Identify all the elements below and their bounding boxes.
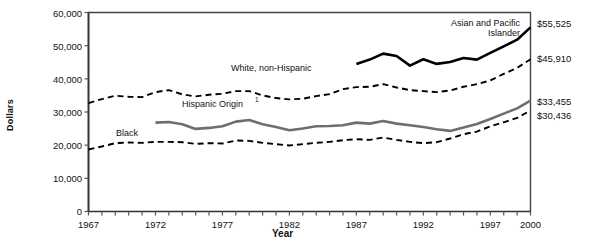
series-label-asian-line2: Islander [488,28,520,38]
y-tick-label-30000: 30,000 [53,107,82,118]
series-label-black: Black [116,128,139,138]
y-axis-title: Dollars [5,75,15,155]
y-axis-title-wrap: Dollars [0,78,21,158]
series-annotations: Asian and Pacific Islander White, non-Hi… [116,18,520,138]
y-tick-label-40000: 40,000 [53,74,82,85]
series-label-hispanic-footnote-marker: 1 [255,96,259,103]
series-path-black [89,111,531,150]
x-tick-label-1977: 1977 [212,219,233,230]
y-tick-label-0: 0 [77,206,82,217]
chart-figure: Dollars Year 60,000 50,000 40,000 30,000… [0,0,589,248]
x-tick-label-2000: 2000 [520,219,541,230]
data-series-layer [89,27,531,149]
x-axis-title: Year [272,228,293,239]
series-label-white: White, non-Hispanic [231,63,312,73]
line-chart-plot: 60,000 50,000 40,000 30,000 20,000 10,00… [0,0,589,248]
x-tick-label-1972: 1972 [145,219,166,230]
plot-frame [88,13,531,212]
x-tick-label-1997: 1997 [480,219,501,230]
y-tick-label-50000: 50,000 [53,41,82,52]
x-tick-label-1967: 1967 [78,219,99,230]
series-label-asian-line1: Asian and Pacific [451,18,521,28]
end-value-hispanic: $33,455 [537,96,571,107]
end-value-black: $30,436 [537,110,571,121]
end-value-labels: $55,525 $45,910 $33,455 $30,436 [537,18,571,121]
x-tick-label-1987: 1987 [346,219,367,230]
x-axis-tick-labels: 19671972197719821987199219972000 [78,219,541,230]
series-label-hispanic: Hispanic Origin [182,99,243,109]
end-value-asian: $55,525 [537,18,571,29]
series-label-hispanic-group: Hispanic Origin 1 [182,96,259,109]
y-tick-label-60000: 60,000 [53,8,82,19]
y-tick-label-10000: 10,000 [53,173,82,184]
y-axis-tick-labels: 60,000 50,000 40,000 30,000 20,000 10,00… [53,8,82,218]
end-value-white: $45,910 [537,53,571,64]
x-tick-label-1992: 1992 [413,219,434,230]
y-tick-label-20000: 20,000 [53,140,82,151]
